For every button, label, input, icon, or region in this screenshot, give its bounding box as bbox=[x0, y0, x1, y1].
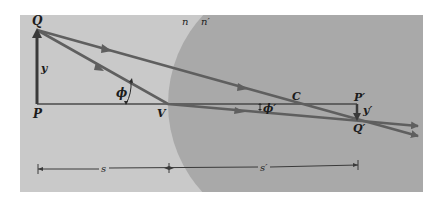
label-n-prime: n′ bbox=[201, 16, 210, 27]
optics-diagram: Q P y V C P′ Q′ y′ ϕ ϕ′ n n′ s s′ bbox=[0, 0, 437, 201]
label-Q: Q bbox=[32, 14, 43, 28]
label-phi: ϕ bbox=[116, 86, 128, 100]
label-s: s bbox=[101, 163, 106, 174]
label-P: P bbox=[32, 107, 43, 121]
label-phi-prime: ϕ′ bbox=[263, 102, 276, 115]
label-s-prime: s′ bbox=[260, 162, 268, 173]
label-Q-prime: Q′ bbox=[353, 122, 366, 135]
label-n: n bbox=[182, 16, 188, 27]
label-C: C bbox=[292, 90, 301, 103]
label-P-prime: P′ bbox=[353, 91, 365, 104]
label-V: V bbox=[157, 107, 167, 120]
label-y-prime: y′ bbox=[362, 104, 372, 117]
